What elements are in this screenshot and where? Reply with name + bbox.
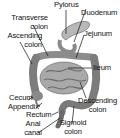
label-jejunum: Jejunum <box>84 30 112 39</box>
label-transverse-colon: Transverse colon <box>10 14 48 31</box>
label-anal-canal: Anal canal <box>22 120 44 137</box>
label-pylorus: Pylorus <box>54 1 79 10</box>
label-ascending-colon: Ascending colon <box>2 32 42 49</box>
label-descending-colon-line2: colon <box>78 106 117 115</box>
label-duodenum: Duodenum <box>81 9 117 18</box>
transverse-colon-shape <box>36 55 94 58</box>
label-sigmoid-colon-line2: colon <box>57 128 89 137</box>
label-anal-canal-line2: canal <box>22 129 44 138</box>
duodenum-shape <box>60 40 75 52</box>
label-descending-colon: Descending colon <box>78 97 117 114</box>
cecum-shape <box>31 91 43 101</box>
label-ileum: Ileum <box>93 64 111 73</box>
label-ascending-colon-line2: colon <box>2 41 42 50</box>
ascending-colon-shape <box>33 58 36 94</box>
label-sigmoid-colon: Sigmoid colon <box>57 119 89 136</box>
label-transverse-colon-line2: colon <box>10 23 48 32</box>
